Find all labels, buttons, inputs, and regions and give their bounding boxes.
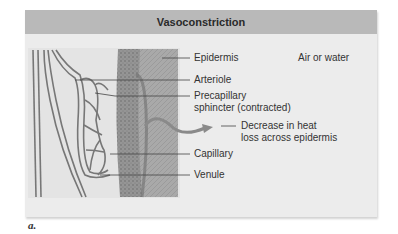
label-heat-line1: Decrease in heat: [241, 120, 317, 132]
label-air-or-water: Air or water: [298, 52, 349, 64]
label-arteriole: Arteriole: [194, 74, 231, 86]
label-precapillary-line2: sphincter (contracted): [194, 102, 291, 114]
figure-sub-label: a.: [28, 219, 36, 231]
label-epidermis: Epidermis: [194, 52, 238, 64]
label-capillary: Capillary: [194, 148, 233, 160]
label-precapillary-line1: Precapillary: [194, 90, 246, 102]
label-heat-line2: loss across epidermis: [241, 132, 337, 144]
heat-arrow-icon: [202, 124, 213, 133]
vasoconstriction-illustration: [0, 0, 398, 234]
label-venule: Venule: [194, 169, 225, 181]
